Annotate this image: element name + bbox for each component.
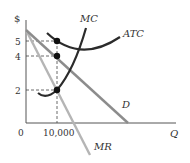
d-label: D — [121, 99, 130, 110]
monopoly-cost-revenue-chart: $ 5 4 2 0 10,000 Q MC ATC D MR — [0, 0, 190, 163]
atc-label: ATC — [122, 28, 144, 39]
mr-label: MR — [93, 141, 112, 152]
atc-point — [54, 38, 60, 44]
price-point — [54, 53, 60, 59]
mc-label: MC — [79, 13, 98, 24]
mc-mr-point — [54, 87, 60, 93]
x-tick-10000: 10,000 — [43, 128, 75, 138]
y-tick-2: 2 — [15, 86, 21, 96]
x-axis-label: Q — [170, 128, 178, 139]
origin-label: 0 — [18, 128, 24, 138]
demand-curve — [26, 30, 128, 123]
y-axis-label: $ — [14, 13, 20, 24]
y-tick-4: 4 — [15, 52, 21, 62]
y-tick-5: 5 — [15, 37, 21, 47]
